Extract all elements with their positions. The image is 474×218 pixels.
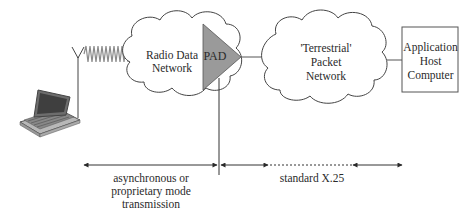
right-span-label: standard X.25 (272, 172, 352, 185)
terrestrial-label-line2: Packet (294, 55, 358, 69)
application-host-label: Application Host Computer (402, 40, 459, 82)
antenna-icon (72, 47, 84, 118)
pad-label: PAD (202, 50, 228, 63)
diagram-canvas (0, 0, 474, 218)
host-label-line2: Host (402, 54, 459, 68)
radio-network-label-line2: Network (144, 62, 200, 75)
left-span-label: asynchronous or proprietary mode transmi… (106, 172, 196, 211)
left-span-label-line1: asynchronous or (106, 172, 196, 185)
right-span-label-text: standard X.25 (280, 172, 345, 184)
radio-network-label: Radio Data Network (144, 49, 200, 75)
terrestrial-label-line1: 'Terrestrial' (294, 41, 358, 55)
pad-label-text: PAD (204, 49, 227, 63)
left-span-label-line3: transmission (106, 198, 196, 211)
terrestrial-label-line3: Network (294, 69, 358, 83)
left-span-label-line2: proprietary mode (106, 185, 196, 198)
radio-network-label-line1: Radio Data (144, 49, 200, 62)
laptop-icon (20, 90, 80, 137)
host-label-line3: Computer (402, 68, 459, 82)
host-label-line1: Application (402, 40, 459, 54)
terrestrial-network-label: 'Terrestrial' Packet Network (294, 41, 358, 83)
